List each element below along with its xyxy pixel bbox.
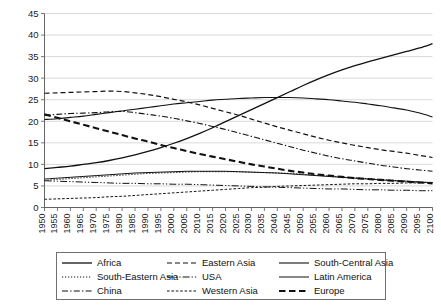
legend-label: Africa [97,258,121,268]
legend-swatch-icon [61,286,93,296]
legend-swatch-icon [278,272,310,282]
x-axis-tick-label: 1955 [49,214,59,234]
legend-item-usa: USA [166,272,278,282]
x-axis-tick-label: 2010 [192,214,202,234]
x-axis-ticks: 1950195519601965197019751980198519901995… [37,208,435,234]
legend-item-eastern-asia: Eastern Asia [166,258,278,268]
legend-item-africa: Africa [61,258,166,268]
x-axis-tick-label: 2080 [373,214,383,234]
legend-swatch-icon [278,258,310,268]
legend-swatch-icon [166,286,198,296]
x-axis-tick-label: 2070 [347,214,357,234]
x-axis-tick-label: 2030 [243,214,253,234]
x-axis-tick-label: 1975 [101,214,111,234]
legend-label: Latin America [314,272,372,282]
legend-item-china: China [61,286,166,296]
y-axis-tick-label: 30 [28,73,39,84]
x-axis-tick-label: 2005 [179,214,189,234]
x-axis-tick-label: 1950 [37,214,47,234]
legend-swatch-icon [278,286,310,296]
x-axis-tick-label: 2050 [295,214,305,234]
x-axis-tick-label: 1960 [62,214,72,234]
legend-label: Europe [314,286,345,296]
x-axis-tick-label: 1985 [127,214,137,234]
y-axis-tick-label: 5 [33,180,38,191]
series-line-africa [45,44,433,169]
x-axis-tick-label: 1995 [153,214,163,234]
x-axis-tick-label: 1980 [114,214,124,234]
y-axis-tick-label: 45 [28,8,39,19]
x-axis-tick-label: 1965 [75,214,85,234]
series-line-latin-america [45,171,433,182]
chart-legend: AfricaEastern AsiaSouth-Central AsiaSout… [56,252,386,300]
y-axis-tick-label: 20 [28,116,39,127]
y-axis-tick-label: 35 [28,51,39,62]
legend-label: South-Central Asia [314,258,393,268]
legend-item-western-asia: Western Asia [166,286,278,296]
series-line-eastern-asia [45,91,433,157]
x-axis-tick-label: 2040 [269,214,279,234]
y-axis-tick-label: 40 [28,29,39,40]
legend-item-latin-america: Latin America [278,272,383,282]
x-axis-tick-label: 2015 [205,214,215,234]
legend-swatch-icon [61,258,93,268]
y-axis-tick-label: 15 [28,137,39,148]
x-axis-tick-label: 2075 [360,214,370,234]
series-line-western-asia [45,183,433,200]
x-axis-tick-label: 2100 [425,214,435,234]
legend-item-south-eastern-asia: South-Eastern Asia [61,272,166,282]
legend-swatch-icon [166,258,198,268]
x-axis-tick-label: 2060 [321,214,331,234]
x-axis-tick-label: 1990 [140,214,150,234]
x-axis-tick-label: 2085 [386,214,396,234]
legend-swatch-icon [61,272,93,282]
y-axis-tick-label: 25 [28,94,39,105]
legend-swatch-icon [166,272,198,282]
x-axis-tick-label: 2020 [218,214,228,234]
x-axis-tick-label: 2000 [166,214,176,234]
y-axis-tick-label: 10 [28,159,39,170]
x-axis-tick-label: 2035 [256,214,266,234]
legend-item-south-central-asia: South-Central Asia [278,258,383,268]
x-axis-tick-label: 2045 [282,214,292,234]
x-axis-tick-label: 2090 [399,214,409,234]
legend-label: Eastern Asia [202,258,255,268]
legend-label: USA [202,272,222,282]
legend-label: China [97,286,122,296]
y-axis-tick-label: 0 [33,202,38,213]
x-axis-tick-label: 1970 [88,214,98,234]
x-axis-tick-label: 2065 [334,214,344,234]
x-axis-tick-label: 2095 [412,214,422,234]
legend-label: Western Asia [202,286,258,296]
x-axis-tick-label: 2055 [308,214,318,234]
line-chart: 0510152025303540451950195519601965197019… [0,0,441,306]
legend-item-europe: Europe [278,286,383,296]
x-axis-tick-label: 2025 [231,214,241,234]
series-line-south-eastern-asia [45,172,433,183]
